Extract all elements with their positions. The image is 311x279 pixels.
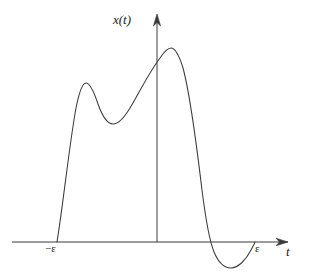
x-tick-label-negative-epsilon: −ε xyxy=(45,243,56,254)
plot-canvas xyxy=(0,0,311,279)
figure-container: x(t) −ε ε t xyxy=(0,0,311,279)
x-tick-label-positive-epsilon: ε xyxy=(255,243,260,254)
x-axis-label: t xyxy=(286,245,290,258)
y-axis-label: x(t) xyxy=(113,13,131,26)
data-curve xyxy=(57,48,255,268)
